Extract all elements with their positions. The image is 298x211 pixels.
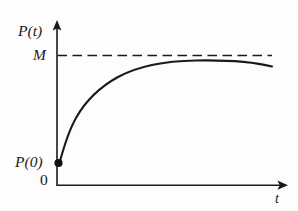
x-axis-label: t bbox=[275, 192, 279, 206]
initial-value-label: P(0) bbox=[15, 154, 43, 170]
initial-point-marker bbox=[54, 159, 62, 167]
asymptote-label: M bbox=[33, 47, 46, 63]
origin-label: 0 bbox=[40, 172, 48, 188]
y-axis-label: P(t) bbox=[18, 23, 42, 39]
growth-curve-figure: P(t) M P(0) 0 t bbox=[0, 0, 298, 211]
growth-curve-path bbox=[60, 60, 273, 163]
